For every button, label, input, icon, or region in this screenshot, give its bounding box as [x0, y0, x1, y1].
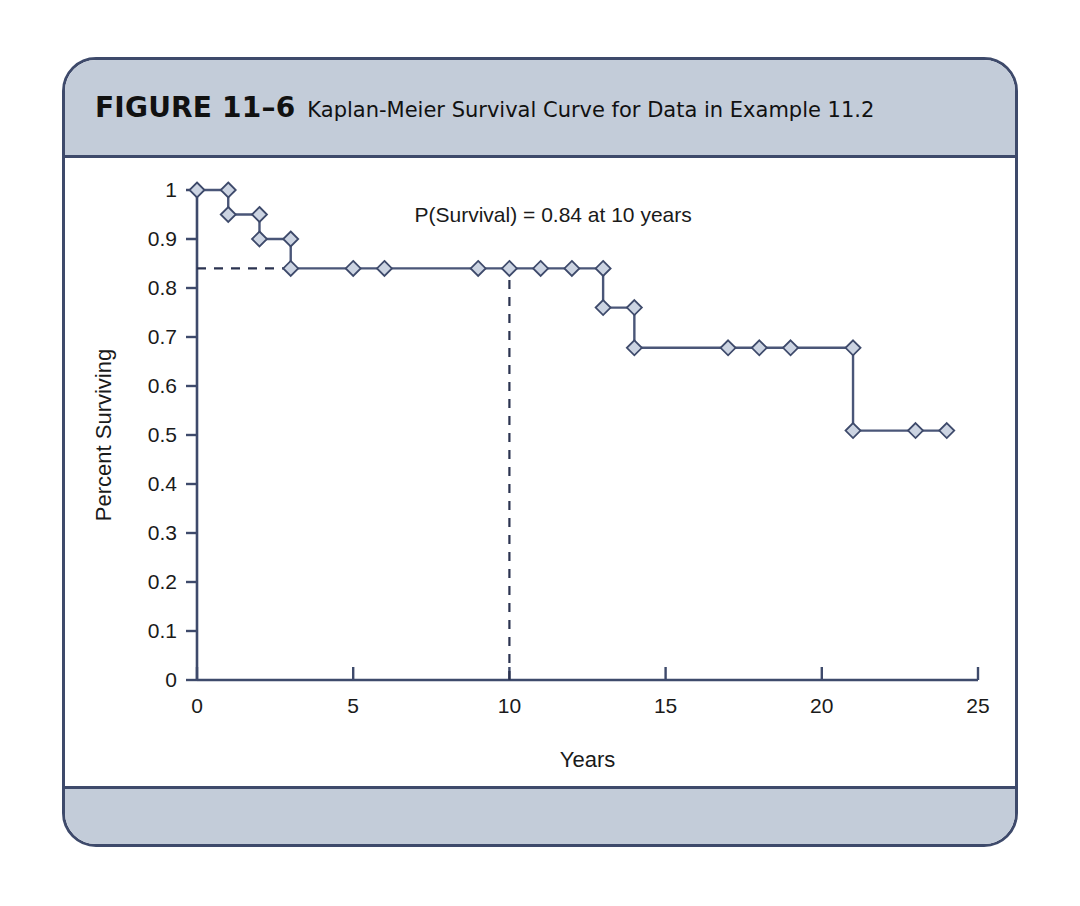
x-tick-label: 0 [191, 694, 203, 717]
y-tick-label: 0.1 [148, 619, 177, 642]
survival-point-marker [596, 261, 611, 276]
y-axis-ticks: 00.10.20.30.40.50.60.70.80.91 [148, 178, 197, 691]
survival-step-curve [197, 190, 947, 431]
plot-area: 00.10.20.30.40.50.60.70.80.91 0510152025… [65, 158, 1015, 792]
survival-point-marker [721, 340, 736, 355]
survival-point-marker [596, 300, 611, 315]
survival-point-marker [221, 183, 236, 198]
y-tick-label: 0.4 [148, 472, 178, 495]
survival-point-marker [252, 232, 267, 247]
survival-point-marker [846, 423, 861, 438]
survival-point-marker [283, 232, 298, 247]
figure-number-label: FIGURE 11–6 [95, 91, 295, 124]
survival-point-marker [627, 300, 642, 315]
kaplan-meier-chart: 00.10.20.30.40.50.60.70.80.91 0510152025… [65, 158, 1015, 792]
survival-point-marker [752, 340, 767, 355]
y-tick-label: 0.5 [148, 423, 177, 446]
y-tick-label: 0.3 [148, 521, 177, 544]
chart-labels: P(Survival) = 0.84 at 10 yearsYearsPerce… [91, 203, 692, 772]
figure-header-band: FIGURE 11–6 Kaplan-Meier Survival Curve … [65, 60, 1015, 158]
y-tick-label: 0.6 [148, 374, 177, 397]
survival-point-marker [783, 340, 798, 355]
survival-point-marker [252, 207, 267, 222]
figure-caption: Kaplan-Meier Survival Curve for Data in … [307, 98, 874, 122]
y-tick-label: 1 [165, 178, 177, 201]
x-tick-label: 25 [966, 694, 989, 717]
x-tick-label: 10 [498, 694, 521, 717]
axis-lines [197, 184, 978, 680]
survival-curve-path [197, 190, 947, 431]
figure-footer-band [65, 786, 1015, 844]
survival-point-marker [939, 423, 954, 438]
y-tick-label: 0.2 [148, 570, 177, 593]
survival-point-marker [846, 340, 861, 355]
survival-point-marker [283, 261, 298, 276]
figure-header-inner: FIGURE 11–6 Kaplan-Meier Survival Curve … [65, 91, 874, 124]
x-tick-label: 5 [347, 694, 359, 717]
reference-lines [197, 268, 509, 680]
survival-point-marker [190, 183, 205, 198]
survival-point-marker [377, 261, 392, 276]
figure-page: FIGURE 11–6 Kaplan-Meier Survival Curve … [0, 0, 1080, 906]
survival-point-marker [471, 261, 486, 276]
survival-point-marker [502, 261, 517, 276]
survival-point-marker [221, 207, 236, 222]
survival-point-marker [346, 261, 361, 276]
survival-point-marker [564, 261, 579, 276]
y-axis-title: Percent Surviving [91, 349, 116, 521]
survival-point-marker [908, 423, 923, 438]
x-axis-ticks: 0510152025 [191, 667, 990, 717]
survival-annotation: P(Survival) = 0.84 at 10 years [415, 203, 692, 226]
x-tick-label: 20 [810, 694, 833, 717]
figure-frame: FIGURE 11–6 Kaplan-Meier Survival Curve … [62, 57, 1018, 847]
y-tick-label: 0.8 [148, 276, 177, 299]
y-tick-label: 0.9 [148, 227, 177, 250]
x-axis-title: Years [560, 747, 615, 772]
y-tick-label: 0.7 [148, 325, 177, 348]
survival-point-marker [627, 340, 642, 355]
survival-point-marker [533, 261, 548, 276]
x-tick-label: 15 [654, 694, 677, 717]
y-tick-label: 0 [165, 668, 177, 691]
